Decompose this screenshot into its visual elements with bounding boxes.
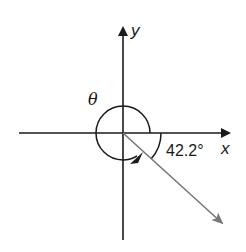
y-axis-label: y [131, 22, 140, 39]
vector-angle-diagram [0, 0, 246, 252]
theta-label: θ [88, 92, 98, 108]
reference-angle-arc [151, 133, 161, 159]
x-axis-label: x [221, 140, 230, 157]
reference-angle-label: 42.2° [166, 143, 204, 159]
